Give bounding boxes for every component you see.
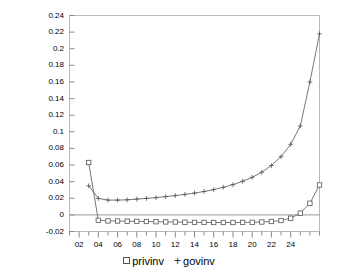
y-tick-label: -0.02 bbox=[18, 228, 64, 236]
y-tick-label: 0.24 bbox=[18, 12, 64, 20]
y-tick-label: 0.22 bbox=[18, 28, 64, 36]
y-tick-label: 0.08 bbox=[18, 144, 64, 152]
y-tick-label: 0.2 bbox=[18, 45, 64, 53]
plus-marker-icon: + bbox=[174, 255, 181, 267]
y-tick-label: 0.1 bbox=[18, 128, 64, 136]
legend-entry-govinv: +govinv bbox=[174, 254, 215, 267]
chart-plot-area bbox=[0, 0, 338, 278]
legend-entry-privinv: privinv bbox=[123, 254, 164, 267]
y-tick-label: 0.06 bbox=[18, 161, 64, 169]
x-axis-ticks bbox=[70, 232, 320, 238]
plot-frame bbox=[70, 16, 320, 232]
chart-legend: privinv +govinv bbox=[0, 254, 338, 267]
y-tick-label: 0.02 bbox=[18, 194, 64, 202]
y-tick-label: 0.12 bbox=[18, 111, 64, 119]
y-tick-label: 0 bbox=[18, 211, 64, 219]
y-tick-label: 0.14 bbox=[18, 95, 64, 103]
y-tick-label: 0.18 bbox=[18, 61, 64, 69]
y-tick-label: 0.04 bbox=[18, 178, 64, 186]
x-tick-label: 24 bbox=[279, 241, 303, 249]
plot-frame-rect bbox=[70, 16, 320, 232]
legend-label-govinv: govinv bbox=[183, 255, 215, 267]
chart-container: 0.240.220.20.180.160.140.120.10.080.060.… bbox=[0, 0, 338, 278]
square-marker-icon bbox=[123, 257, 130, 264]
y-tick-label: 0.16 bbox=[18, 78, 64, 86]
legend-label-privinv: privinv bbox=[132, 255, 164, 267]
